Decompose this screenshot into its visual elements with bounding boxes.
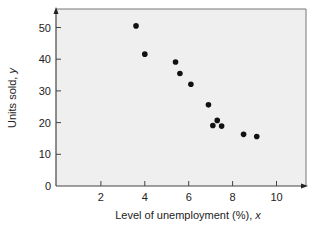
- data-point: [142, 51, 148, 57]
- data-point: [173, 59, 179, 65]
- y-tick-label: 20: [39, 117, 51, 129]
- y-axis-label: Units sold, y: [6, 67, 18, 128]
- data-point: [210, 123, 216, 129]
- data-point: [133, 23, 139, 29]
- y-tick-label: 0: [45, 180, 51, 192]
- data-point: [188, 81, 194, 87]
- x-tick-label: 8: [230, 191, 236, 203]
- scatter-chart: 01020304050 246810 Level of unemployment…: [0, 0, 319, 230]
- y-tick-label: 50: [39, 22, 51, 34]
- x-tick-label: 2: [98, 191, 104, 203]
- data-point: [177, 71, 183, 77]
- y-tick-label: 40: [39, 53, 51, 65]
- x-tick-label: 6: [186, 191, 192, 203]
- data-point: [241, 132, 247, 138]
- data-point: [214, 118, 220, 124]
- x-tick-label: 4: [142, 191, 148, 203]
- data-point: [206, 102, 212, 108]
- data-point: [219, 123, 225, 129]
- plot-area: [56, 9, 306, 186]
- x-tick-label: 10: [270, 191, 282, 203]
- data-point: [254, 134, 260, 140]
- x-axis-label: Level of unemployment (%), x: [115, 209, 261, 221]
- y-tick-label: 30: [39, 85, 51, 97]
- y-tick-label: 10: [39, 148, 51, 160]
